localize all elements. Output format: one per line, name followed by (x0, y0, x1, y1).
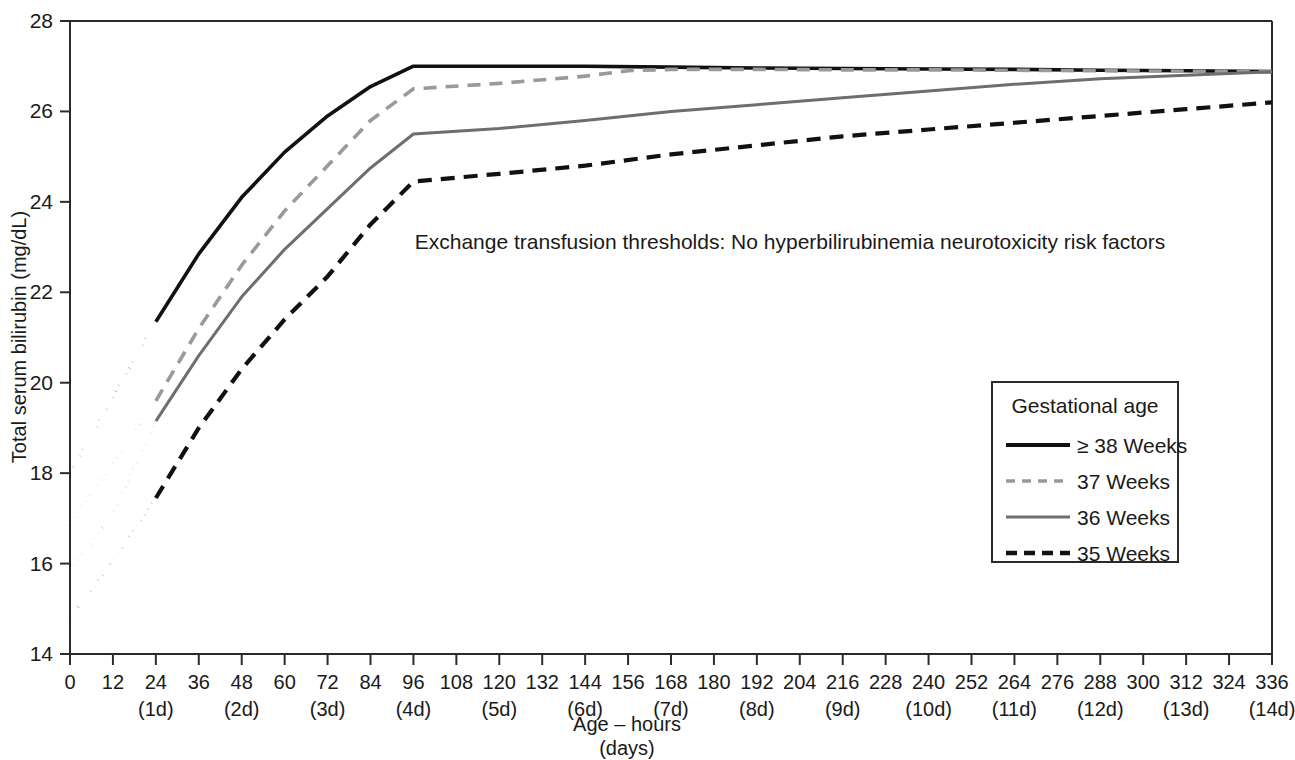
y-tick-label: 16 (30, 552, 53, 575)
x-tick-hour-label: 120 (483, 671, 516, 693)
x-tick-hour-label: 324 (1212, 671, 1245, 693)
y-tick-label: 22 (30, 280, 53, 303)
x-axis-title-hours: Age – hours (573, 713, 681, 735)
x-tick-hour-label: 60 (274, 671, 296, 693)
x-tick-hour-label: 216 (826, 671, 859, 693)
x-tick-hour-label: 72 (316, 671, 338, 693)
bilirubin-exchange-transfusion-chart: Exchange transfusion thresholds: No hype… (0, 0, 1295, 760)
x-tick-day-label: (5d) (481, 698, 517, 720)
series-dotted-head (70, 401, 156, 523)
x-tick-day-label: (4d) (396, 698, 432, 720)
x-tick-hour-label: 144 (568, 671, 601, 693)
legend-title: Gestational age (1011, 394, 1158, 417)
x-tick-day-label: (1d) (138, 698, 174, 720)
x-tick-hour-label: 312 (1169, 671, 1202, 693)
legend: Gestational age≥ 38 Weeks37 Weeks36 Week… (992, 382, 1187, 565)
y-tick-label: 14 (30, 642, 54, 665)
legend-label: 37 Weeks (1077, 470, 1170, 493)
x-tick-hour-label: 48 (231, 671, 253, 693)
x-tick-hour-label: 240 (912, 671, 945, 693)
annotation-label: Exchange transfusion thresholds: No hype… (415, 230, 1166, 253)
x-tick-day-label: (9d) (825, 698, 861, 720)
x-tick-day-label: (10d) (905, 698, 952, 720)
legend-label: 36 Weeks (1077, 506, 1170, 529)
legend-label: 35 Weeks (1077, 542, 1170, 565)
x-tick-hour-label: 84 (359, 671, 381, 693)
x-tick-hour-label: 132 (526, 671, 559, 693)
x-tick-hour-label: 252 (955, 671, 988, 693)
y-tick-label: 20 (30, 371, 53, 394)
x-tick-day-label: (3d) (310, 698, 346, 720)
y-tick-label: 26 (30, 99, 53, 122)
y-tick-label: 24 (30, 190, 54, 213)
y-axis-title: Total serum bilirubin (mg/dL) (8, 211, 30, 463)
x-tick-hour-label: 336 (1255, 671, 1288, 693)
x-tick-hour-label: 36 (188, 671, 210, 693)
x-tick-hour-label: 156 (611, 671, 644, 693)
x-tick-hour-label: 192 (740, 671, 773, 693)
x-tick-hour-label: 288 (1084, 671, 1117, 693)
chart-figure: Exchange transfusion thresholds: No hype… (0, 0, 1295, 760)
annotation-text: Exchange transfusion thresholds: No hype… (415, 230, 1166, 253)
x-tick-hour-label: 180 (697, 671, 730, 693)
x-tick-hour-label: 204 (783, 671, 816, 693)
x-tick-day-label: (8d) (739, 698, 775, 720)
x-tick-hour-label: 24 (145, 671, 167, 693)
x-tick-hour-label: 12 (102, 671, 124, 693)
x-tick-hour-label: 96 (402, 671, 424, 693)
x-tick-day-label: (11d) (992, 698, 1037, 720)
series-dotted-head (70, 322, 156, 473)
x-tick-hour-label: 108 (440, 671, 473, 693)
x-tick-hour-label: 168 (654, 671, 687, 693)
x-tick-day-label: (14d) (1249, 698, 1295, 720)
x-tick-day-label: (12d) (1077, 698, 1124, 720)
x-axis-title-days: (days) (599, 737, 655, 759)
legend-label: ≥ 38 Weeks (1077, 434, 1187, 457)
x-tick-hour-label: 276 (1041, 671, 1074, 693)
x-tick-hour-label: 0 (64, 671, 75, 693)
y-tick-label: 18 (30, 461, 53, 484)
x-tick-hour-label: 228 (869, 671, 902, 693)
x-tick-day-label: (2d) (224, 698, 260, 720)
x-tick-hour-label: 264 (998, 671, 1031, 693)
series-dotted-head (70, 421, 156, 570)
y-tick-label: 28 (30, 9, 53, 32)
series-body (156, 66, 1272, 321)
series-dotted-head (70, 498, 156, 618)
x-tick-day-label: (13d) (1163, 698, 1210, 720)
x-tick-hour-label: 300 (1127, 671, 1160, 693)
